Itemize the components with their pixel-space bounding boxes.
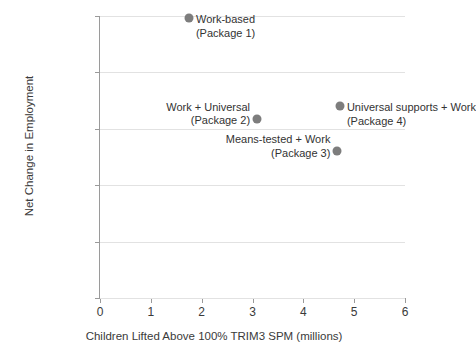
data-point-label-line2: (Package 3) xyxy=(226,147,331,161)
data-point-label-line1: Work-based xyxy=(196,13,255,27)
data-point-label: Universal supports + Work(Package 4) xyxy=(347,101,476,128)
x-tick-label: 1 xyxy=(136,305,166,319)
data-point[interactable] xyxy=(335,102,344,111)
data-point-label-line2: (Package 1) xyxy=(196,27,255,41)
x-tick-mark xyxy=(405,299,406,303)
x-tick-label: 4 xyxy=(288,305,318,319)
data-point-label-line2: (Package 2) xyxy=(166,114,250,128)
x-tick-mark xyxy=(354,299,355,303)
x-tick-label: 6 xyxy=(390,305,420,319)
data-point-label-line1: Universal supports + Work xyxy=(347,101,476,115)
x-tick-label: 0 xyxy=(85,305,115,319)
y-axis-title: Net Change in Employment xyxy=(23,31,35,261)
data-point[interactable] xyxy=(333,147,342,156)
data-point-label: Work-based(Package 1) xyxy=(196,13,255,40)
data-point-label-line1: Means-tested + Work xyxy=(226,133,331,147)
data-point-label-line1: Work + Universal xyxy=(166,101,250,115)
x-axis-title: Children Lifted Above 100% TRIM3 SPM (mi… xyxy=(0,330,428,342)
data-point-label: Work + Universal(Package 2) xyxy=(166,101,250,128)
x-tick-label: 2 xyxy=(187,305,217,319)
x-tick-mark xyxy=(100,299,101,303)
x-tick-mark xyxy=(253,299,254,303)
x-tick-label: 3 xyxy=(238,305,268,319)
data-point-label: Means-tested + Work(Package 3) xyxy=(226,133,331,160)
x-tick-mark xyxy=(303,299,304,303)
data-point[interactable] xyxy=(253,114,262,123)
data-point[interactable] xyxy=(184,14,193,23)
data-point-label-line2: (Package 4) xyxy=(347,115,476,129)
x-tick-mark xyxy=(202,299,203,303)
x-tick-mark xyxy=(151,299,152,303)
x-tick-label: 5 xyxy=(339,305,369,319)
